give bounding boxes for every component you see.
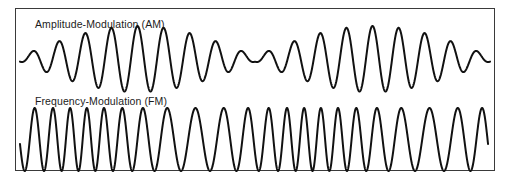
fm-waveform-plot	[16, 107, 494, 172]
panel-amplitude-modulation: Amplitude-Modulation (AM)	[16, 9, 494, 93]
am-waveform-plot	[16, 25, 494, 93]
figure-border: Amplitude-Modulation (AM) Frequency-Modu…	[15, 8, 495, 171]
panel-label-fm: Frequency-Modulation (FM)	[35, 95, 167, 107]
figure-root: Amplitude-Modulation (AM) Frequency-Modu…	[0, 0, 510, 182]
panel-frequency-modulation: Frequency-Modulation (FM)	[16, 93, 494, 172]
am-waveform-trace	[20, 26, 490, 92]
fm-waveform-trace	[20, 108, 488, 171]
